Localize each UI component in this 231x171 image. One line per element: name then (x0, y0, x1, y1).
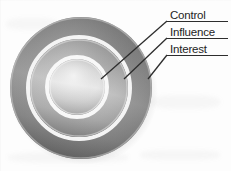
callout-rule-interest (167, 55, 228, 56)
callout-label-control: Control (170, 9, 206, 21)
callout-label-interest: Interest (170, 43, 207, 55)
concentric-circles-diagram: Control Influence Interest (0, 0, 231, 171)
leader-line-influence (124, 38, 167, 79)
leader-line-interest (148, 55, 167, 79)
callout-rule-control (167, 21, 228, 22)
callout-rule-influence (167, 38, 228, 39)
callout-label-influence: Influence (170, 26, 215, 38)
